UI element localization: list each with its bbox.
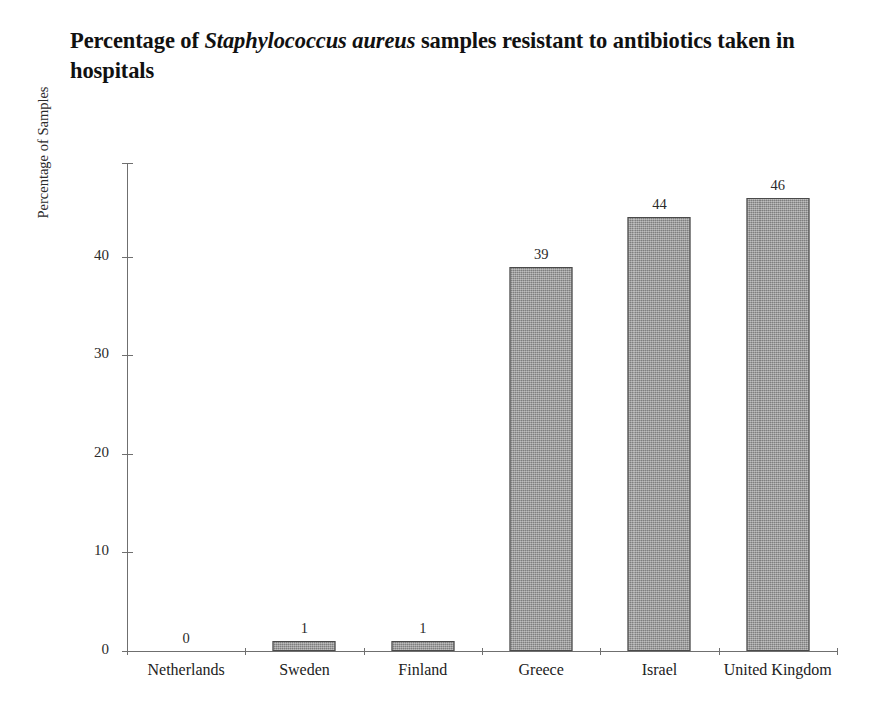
x-category-label: Sweden [279,661,330,679]
x-category-label: Israel [642,661,678,679]
bar-value-label: 0 [183,630,190,647]
bar-value-label: 39 [534,246,549,263]
y-tick-label-0: 0 [102,641,110,658]
bar[interactable] [746,198,809,651]
y-tick-label-40: 40 [94,247,109,264]
bar-group: 39Greece [482,163,600,651]
bar[interactable] [628,217,691,651]
bar-chart-figure: Percentage of Staphylococcus aureus samp… [0,0,883,727]
title-text-pre: Percentage of [70,28,204,53]
y-axis-title: Percentage of Samples [35,63,52,243]
x-category-label: Greece [519,661,564,679]
x-category-label: Netherlands [148,661,225,679]
x-category-label: Finland [398,661,447,679]
bar-value-label: 44 [652,196,667,213]
y-tick-label-10: 10 [94,542,109,559]
bar-group: 46United Kingdom [719,163,837,651]
bar-group: 1Finland [364,163,482,651]
bar[interactable] [273,641,336,651]
x-tick-6 [837,648,838,655]
x-category-label: United Kingdom [724,661,832,679]
title-species-name: Staphylococcus aureus [204,28,415,53]
y-tick-label-20: 20 [94,444,109,461]
y-tick-label-30: 30 [94,345,109,362]
bar-group: 0Netherlands [127,163,245,651]
bar[interactable] [391,641,454,651]
title-text-post: samples resistant to [415,28,607,53]
bar-value-label: 1 [419,620,426,637]
bar-value-label: 46 [771,177,786,194]
bar-group: 44Israel [600,163,718,651]
bar-group: 1Sweden [245,163,363,651]
chart-title: Percentage of Staphylococcus aureus samp… [70,26,810,86]
plot-area: 010203040 0Netherlands1Sweden1Finland39G… [127,163,837,651]
bar-value-label: 1 [301,620,308,637]
bar[interactable] [510,267,573,651]
